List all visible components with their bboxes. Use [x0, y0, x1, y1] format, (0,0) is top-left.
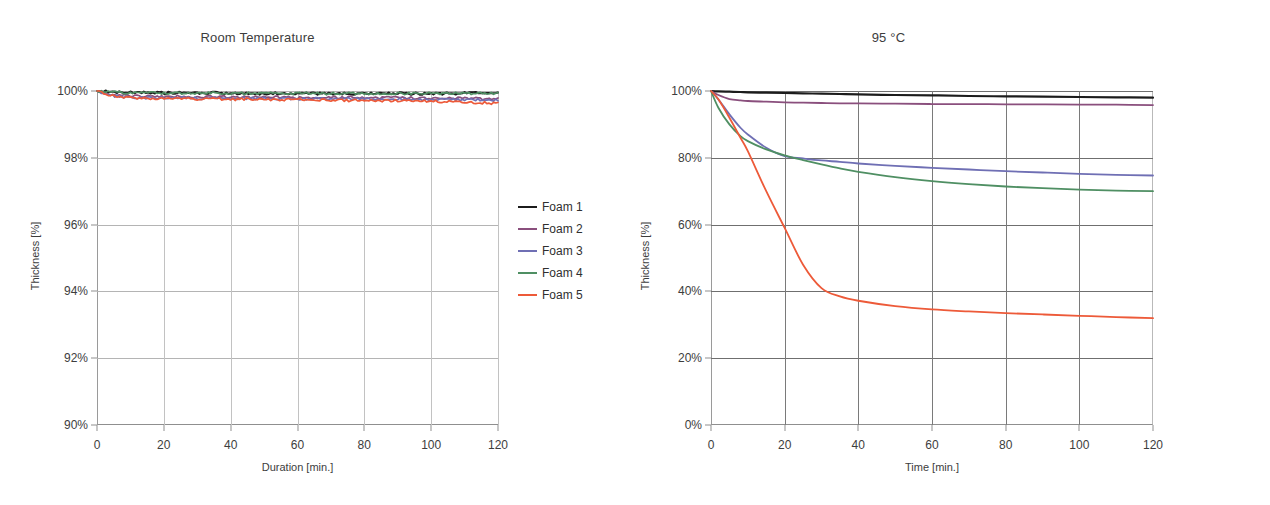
axis-title-x-left: Duration [min.] [97, 461, 498, 473]
legend-item-foam-3[interactable]: Foam 3 [518, 240, 583, 262]
tick-label-x-80-right: 80 [999, 438, 1012, 452]
gridline-x-120-left [498, 91, 499, 425]
series-line-foam-1 [711, 91, 1153, 98]
series-line-foam-5 [711, 91, 1153, 318]
tick-mark-x-120-right [1153, 425, 1154, 431]
tick-mark-x-0-right [711, 425, 712, 431]
tick-label-x-20-left: 20 [157, 438, 170, 452]
legend-left: Foam 1Foam 2Foam 3Foam 4Foam 5 [518, 196, 583, 306]
tick-mark-x-60-right [932, 425, 933, 431]
plot-area-right: 100% 80% 60% 40% 20% 0% 0 20 40 60 80 10… [711, 91, 1153, 425]
tick-label-x-120-left: 120 [488, 438, 508, 452]
tick-label-x-120-right: 120 [1143, 438, 1163, 452]
tick-label-y-100-right: 100% [671, 84, 711, 98]
tick-label-x-40-right: 40 [852, 438, 865, 452]
legend-item-label: Foam 3 [542, 245, 583, 257]
tick-label-x-0-right: 0 [708, 438, 715, 452]
legend-line-icon [518, 228, 537, 230]
tick-label-y-94-left: 94% [64, 284, 97, 298]
tick-label-y-20-right: 20% [678, 351, 711, 365]
series-lines-right [711, 91, 1153, 425]
tick-label-y-80-right: 80% [678, 151, 711, 165]
legend-item-foam-4[interactable]: Foam 4 [518, 262, 583, 284]
tick-label-y-60-right: 60% [678, 218, 711, 232]
series-line-foam-4 [711, 91, 1153, 191]
chart-title-left: Room Temperature [0, 30, 635, 45]
axis-title-y-right: Thickness [%] [639, 196, 651, 316]
tick-label-y-96-left: 96% [64, 218, 97, 232]
legend-line-icon [518, 250, 537, 252]
tick-label-y-92-left: 92% [64, 351, 97, 365]
legend-line-icon [518, 294, 537, 296]
tick-mark-x-60-left [297, 425, 298, 431]
figure-container: Room Temperature 100% 98% 96% 94% 92% 90… [0, 0, 1270, 505]
tick-mark-x-80-right [1005, 425, 1006, 431]
tick-label-y-40-right: 40% [678, 284, 711, 298]
tick-label-x-80-left: 80 [358, 438, 371, 452]
legend-line-icon [518, 206, 537, 208]
axis-title-y-left: Thickness [%] [29, 196, 41, 316]
tick-label-x-100-left: 100 [421, 438, 441, 452]
tick-label-x-0-left: 0 [94, 438, 101, 452]
axis-title-x-right: Time [min.] [711, 461, 1153, 473]
tick-mark-x-100-right [1079, 425, 1080, 431]
tick-label-x-40-left: 40 [224, 438, 237, 452]
chart-title-right: 95 °C [635, 30, 1270, 45]
chart-room-temperature: Room Temperature 100% 98% 96% 94% 92% 90… [0, 0, 635, 505]
tick-label-x-60-left: 60 [291, 438, 304, 452]
tick-mark-x-40-right [858, 425, 859, 431]
tick-label-y-90-left: 90% [64, 418, 97, 432]
series-lines-left [97, 91, 498, 425]
legend-item-label: Foam 2 [542, 223, 583, 235]
tick-label-y-100-left: 100% [57, 84, 97, 98]
chart-95c: 95 °C 100% 80% 60% 40% 20% 0% [635, 0, 1270, 505]
legend-item-label: Foam 1 [542, 201, 583, 213]
tick-mark-x-20-left [163, 425, 164, 431]
tick-label-x-100-right: 100 [1069, 438, 1089, 452]
legend-item-label: Foam 4 [542, 267, 583, 279]
tick-label-x-60-right: 60 [925, 438, 938, 452]
plot-area-left: 100% 98% 96% 94% 92% 90% 0 20 40 60 80 [97, 91, 498, 425]
tick-mark-x-120-left [498, 425, 499, 431]
legend-item-foam-1[interactable]: Foam 1 [518, 196, 583, 218]
tick-mark-x-0-left [97, 425, 98, 431]
legend-item-label: Foam 5 [542, 289, 583, 301]
legend-line-icon [518, 272, 537, 274]
tick-label-y-0-right: 0% [685, 418, 711, 432]
tick-mark-x-20-right [784, 425, 785, 431]
legend-item-foam-5[interactable]: Foam 5 [518, 284, 583, 306]
tick-label-y-98-left: 98% [64, 151, 97, 165]
tick-mark-x-100-left [431, 425, 432, 431]
tick-label-x-20-right: 20 [778, 438, 791, 452]
tick-mark-x-80-left [364, 425, 365, 431]
tick-mark-x-40-left [230, 425, 231, 431]
legend-item-foam-2[interactable]: Foam 2 [518, 218, 583, 240]
